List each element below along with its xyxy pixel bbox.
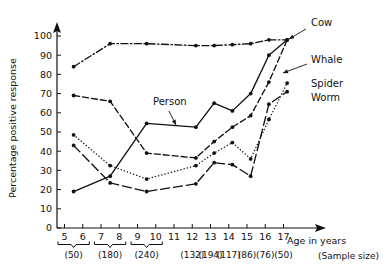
y-tick-label: 0 [46, 222, 52, 233]
data-point [231, 141, 235, 145]
data-point [249, 114, 253, 118]
x-tick-label: 15 [241, 231, 253, 242]
data-point [267, 118, 271, 122]
y-tick-label: 60 [40, 107, 52, 118]
data-point [194, 44, 198, 48]
sample-size-label: (180) [98, 250, 122, 260]
sample-size-label: (50) [64, 250, 82, 260]
data-point [145, 177, 149, 181]
series-line-person [74, 40, 288, 192]
series-cow [72, 38, 289, 69]
y-tick-label: 80 [40, 69, 52, 80]
data-point [212, 140, 216, 144]
series-label-whale: Whale [311, 54, 342, 65]
annotation-cow: Cow [289, 17, 332, 39]
data-point [267, 80, 271, 84]
annotation-person: Person [153, 96, 187, 125]
data-point [145, 151, 149, 155]
data-point [231, 43, 235, 47]
x-tick-label: 9 [134, 231, 140, 242]
data-point [267, 102, 271, 106]
sample-size-label: (76) [256, 250, 274, 260]
data-point [108, 164, 112, 168]
sample-size-bracket-group [58, 242, 162, 248]
data-point [285, 38, 289, 42]
data-series-layer [72, 38, 289, 193]
series-line-cow [74, 40, 288, 67]
x-tick-label: 13 [204, 231, 216, 242]
data-point [231, 109, 235, 113]
data-point [72, 144, 76, 148]
data-point [72, 65, 76, 69]
sample-size-label-group: (50)(180)(240)(132)(194)(117)(86)(76)(50… [64, 250, 292, 260]
annotation-arrowhead [283, 69, 288, 73]
x-axis-title: Age in years [287, 235, 346, 246]
data-point [249, 42, 253, 46]
data-point [267, 38, 271, 42]
data-point [249, 92, 253, 96]
data-point [212, 44, 216, 48]
x-tick-label: 16 [259, 231, 271, 242]
y-tick-label: 70 [40, 88, 52, 99]
data-point [194, 125, 198, 129]
data-point [231, 125, 235, 129]
x-tick-label: 10 [150, 231, 162, 242]
x-tick-label: 14 [223, 231, 235, 242]
data-point [212, 161, 216, 165]
series-label-person: Person [153, 96, 187, 107]
sample-size-label: (50) [274, 250, 292, 260]
x-tick-label: 5 [61, 231, 67, 242]
y-tick-label: 30 [40, 165, 52, 176]
y-tick-label: 20 [40, 184, 52, 195]
data-point [108, 174, 112, 178]
sample-size-bracket [58, 242, 89, 248]
y-tick-label: 90 [40, 50, 52, 61]
data-point [249, 174, 253, 178]
sample-size-bracket [131, 242, 162, 248]
y-axis [53, 22, 61, 228]
data-point [267, 53, 271, 57]
data-point [108, 99, 112, 103]
data-point [145, 121, 149, 125]
annotation-spider: Spider [311, 78, 344, 89]
data-point [108, 181, 112, 185]
y-tick-label: 40 [40, 146, 52, 157]
data-point [145, 42, 149, 46]
data-point [194, 164, 198, 168]
percentage-positive-response-line-chart: 0102030405060708090100 56789101112131415… [0, 0, 386, 269]
x-tick-label: 8 [116, 231, 122, 242]
data-point [145, 190, 149, 194]
data-point [285, 90, 289, 94]
sample-size-bracket [95, 242, 126, 248]
data-point [72, 133, 76, 137]
data-point [285, 81, 289, 85]
data-point [231, 163, 235, 167]
annotation-worm: Worm [311, 92, 340, 103]
sample-size-label: (240) [135, 250, 159, 260]
sample-size-caption: (Sample size) [318, 251, 379, 261]
annotation-whale: Whale [283, 54, 342, 73]
x-tick-label: 7 [98, 231, 104, 242]
y-tick-label: 50 [40, 126, 52, 137]
y-tick-label: 100 [34, 30, 52, 41]
y-tick-label: 10 [40, 203, 52, 214]
x-axis-tick-group: 567891011121314151617 [61, 224, 289, 242]
x-tick-label: 11 [168, 231, 180, 242]
data-point [212, 151, 216, 155]
series-label-cow: Cow [311, 17, 332, 28]
data-point [72, 190, 76, 194]
series-label-spider: Spider [311, 78, 344, 89]
data-point [108, 42, 112, 46]
x-tick-label: 12 [186, 231, 198, 242]
x-tick-label: 6 [80, 231, 86, 242]
y-axis-title: Percentage positive response [7, 58, 18, 198]
data-point [249, 157, 253, 161]
data-point [194, 182, 198, 186]
data-point [194, 156, 198, 160]
sample-size-label: (86) [238, 250, 256, 260]
series-annotation-layer: CowWhaleSpiderWormPerson [153, 17, 344, 125]
data-point [72, 94, 76, 98]
series-label-worm: Worm [311, 92, 340, 103]
data-point [212, 101, 216, 105]
chart-container: 0102030405060708090100 56789101112131415… [0, 0, 386, 269]
